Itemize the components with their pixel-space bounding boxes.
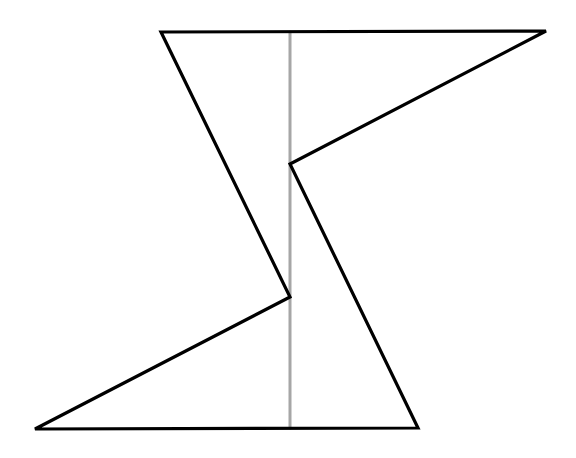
diagram-canvas [0,0,576,458]
background [0,0,576,458]
